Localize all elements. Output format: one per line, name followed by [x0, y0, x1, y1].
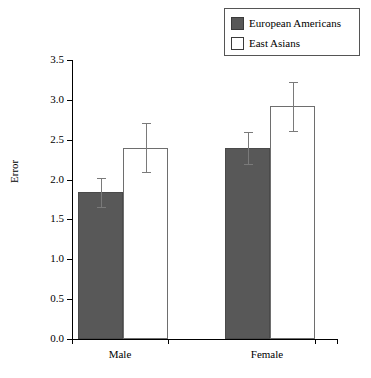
- legend-swatch-european-americans: [231, 17, 244, 30]
- error-bar-cap: [289, 82, 298, 83]
- x-axis-line: [72, 339, 338, 340]
- y-axis-tick-label: 2.5: [50, 133, 64, 146]
- error-bar-line: [293, 82, 294, 131]
- x-category-label-male: Male: [48, 348, 192, 361]
- y-axis-tick-label: 1.0: [50, 252, 64, 265]
- bar-chart-figure: European Americans East Asians Error 0.0…: [0, 0, 371, 378]
- x-axis-tick: [168, 339, 169, 344]
- error-bar-cap: [244, 164, 253, 165]
- error-bar-cap: [97, 207, 106, 208]
- legend-item-east-asians: East Asians: [231, 34, 353, 52]
- legend-swatch-east-asians: [231, 37, 244, 50]
- y-axis-tick: 2.5: [67, 140, 72, 141]
- y-axis-title: Error: [8, 160, 20, 183]
- y-axis-tick: 3.0: [67, 100, 72, 101]
- error-bar-cap: [142, 172, 151, 173]
- chart-legend: European Americans East Asians: [224, 8, 360, 56]
- plot-area: 0.00.51.01.52.02.53.03.5: [72, 60, 338, 339]
- bar: [123, 148, 168, 339]
- x-axis-tick: [315, 339, 316, 344]
- error-bar-cap: [142, 123, 151, 124]
- y-axis-tick-label: 1.5: [50, 212, 64, 225]
- x-category-label-female: Female: [195, 348, 339, 361]
- y-axis-tick-label: 3.5: [50, 53, 64, 66]
- y-axis-tick: 0.5: [67, 299, 72, 300]
- y-axis-tick-label: 0.0: [50, 332, 64, 345]
- legend-label-east-asians: East Asians: [249, 37, 300, 50]
- bar: [225, 148, 270, 339]
- y-axis-tick: 2.0: [67, 180, 72, 181]
- error-bar-cap: [289, 131, 298, 132]
- y-axis-tick: 3.5: [67, 60, 72, 61]
- error-bar-line: [101, 178, 102, 207]
- bar: [78, 192, 123, 339]
- y-axis-tick-label: 0.5: [50, 292, 64, 305]
- error-bar-line: [146, 123, 147, 172]
- y-axis-tick-label: 3.0: [50, 93, 64, 106]
- y-axis-tick: 1.5: [67, 219, 72, 220]
- bar: [270, 106, 315, 339]
- error-bar-line: [248, 132, 249, 164]
- y-axis-tick-label: 2.0: [50, 173, 64, 186]
- legend-label-european-americans: European Americans: [249, 17, 341, 30]
- error-bar-cap: [244, 132, 253, 133]
- error-bar-cap: [97, 178, 106, 179]
- x-axis-tick: [337, 339, 338, 344]
- legend-item-european-americans: European Americans: [231, 14, 353, 32]
- y-axis-tick: 1.0: [67, 259, 72, 260]
- x-axis-tick: [72, 339, 73, 344]
